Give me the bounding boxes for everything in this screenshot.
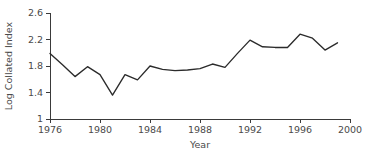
- y-axis-tick-label: 2.6: [28, 7, 43, 18]
- x-axis-tick-label: 1992: [238, 124, 262, 135]
- line-chart: 11.41.82.22.6 19761980198419881992199620…: [0, 0, 387, 152]
- x-axis-tick-label: 1980: [88, 124, 112, 135]
- data-series-line: [50, 34, 338, 95]
- y-axis-ticks: [46, 13, 50, 119]
- x-axis-ticks: [50, 119, 350, 123]
- y-axis-tick-label: 1.4: [28, 87, 43, 98]
- x-axis-tick-label: 1984: [138, 124, 162, 135]
- x-axis: 1976198019841988199219962000: [38, 119, 362, 135]
- y-axis: 11.41.82.22.6: [28, 7, 50, 124]
- x-axis-tick-label: 2000: [338, 124, 362, 135]
- chart-container: 11.41.82.22.6 19761980198419881992199620…: [0, 0, 387, 152]
- plot-area: [50, 34, 338, 95]
- x-axis-tick-label: 1996: [288, 124, 312, 135]
- x-axis-title: Year: [189, 139, 210, 150]
- x-axis-tick-label: 1976: [38, 124, 62, 135]
- y-axis-tick-label: 2.2: [28, 34, 43, 45]
- y-axis-tick-label: 1.8: [28, 60, 43, 71]
- x-axis-tick-label: 1988: [188, 124, 212, 135]
- x-axis-tick-labels: 1976198019841988199219962000: [38, 124, 362, 135]
- y-axis-tick-labels: 11.41.82.22.6: [28, 7, 43, 124]
- y-axis-tick-label: 1: [37, 113, 43, 124]
- y-axis-title: Log Collated Index: [3, 21, 14, 110]
